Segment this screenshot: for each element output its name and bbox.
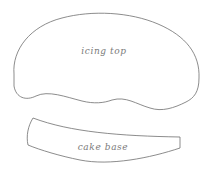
icing-top-label: icing top xyxy=(81,46,126,56)
cake-base-outline xyxy=(27,118,180,162)
cake-base-label: cake base xyxy=(78,142,129,152)
icing-top-outline xyxy=(14,13,199,109)
